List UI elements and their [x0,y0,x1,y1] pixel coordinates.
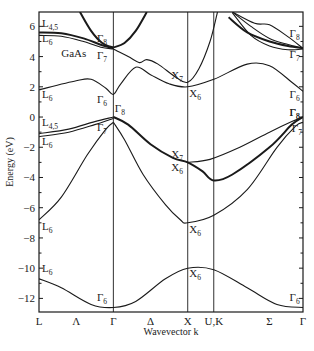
symmetry-point-label: L6 [42,88,53,103]
band-curve [113,117,303,181]
symmetry-point-label: Γ6 [290,88,300,103]
y-tick-label: −6 [23,202,35,214]
material-label: GaAs [61,47,86,59]
y-tick-label: −10 [18,262,36,274]
band-curve [39,122,113,220]
symmetry-point-labels: L4,5L6Γ8Γ7Γ6L6X7X6Γ8Γ7Γ6Γ8Γ8L4,5L6Γ7X7X6… [42,17,302,306]
band-curve [113,12,217,83]
x-tick-label: Γ [300,315,306,327]
symmetry-point-label: X6 [171,161,183,176]
symmetry-point-label: Γ6 [97,93,107,108]
symmetry-point-label: L6 [42,262,53,277]
symmetry-point-label: Γ6 [290,291,300,306]
symmetry-point-label: X7 [171,69,183,84]
band-curve [39,267,303,308]
x-tick-label: Γ [110,315,116,327]
symmetry-point-label: Γ8 [115,102,125,117]
symmetry-point-label: L6 [42,135,53,150]
y-tick-label: 0 [30,111,36,123]
y-axis-title: Energy (eV) [4,137,16,187]
y-tick-label: 2 [30,81,36,93]
symmetry-point-label: X6 [189,267,201,282]
x-tick-label: U,K [204,315,223,327]
symmetry-point-label: L6 [42,32,53,47]
x-tick-label: L [36,315,43,327]
x-axis-title: Wavevector k [144,326,199,337]
symmetry-point-label: X6 [189,223,201,238]
x-tick-label: Σ [266,315,272,327]
y-tick-label: −8 [23,232,35,244]
symmetry-point-label: Γ7 [292,122,302,137]
y-tick-label: −4 [23,171,35,183]
band-structure-chart: 6420−2−4−6−8−10−12 LΛΓΔXU,KΣΓ L4,5L6Γ8Γ7… [0,0,314,351]
band-curve [188,117,303,162]
symmetry-point-label: L4,5 [42,116,58,131]
symmetry-point-label: L6 [42,220,53,235]
x-tick-label: Λ [72,315,80,327]
y-tick-label: −2 [23,141,35,153]
band-curve [113,12,146,48]
symmetry-point-label: L4,5 [42,17,58,32]
y-tick-label: 4 [30,51,36,63]
symmetry-point-label: Γ6 [97,291,107,306]
y-tick-label: 6 [30,20,36,32]
symmetry-point-label: Γ7 [290,48,300,63]
symmetry-point-label: Γ8 [290,106,300,121]
symmetry-point-label: X6 [189,87,201,102]
y-tick-label: −12 [18,292,35,304]
symmetry-point-label: Γ7 [97,49,107,64]
